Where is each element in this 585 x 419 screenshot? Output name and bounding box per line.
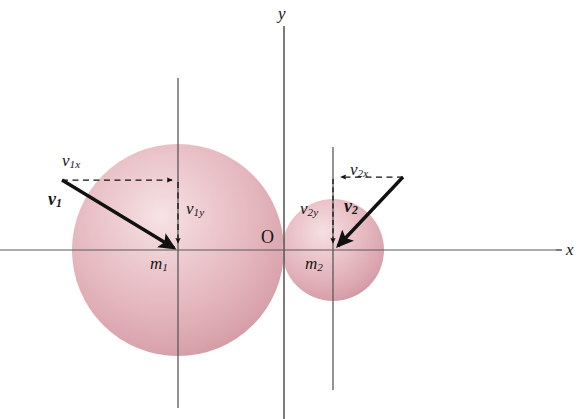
m2-label: m2: [305, 255, 323, 273]
v2-label: v2: [344, 197, 358, 217]
diagram-canvas: [0, 0, 585, 419]
v1x-label: v1x: [62, 152, 80, 170]
y-axis-label: y: [278, 5, 286, 22]
v2y-label: v2y: [300, 200, 318, 218]
physics-vector-diagram: y x O v1x v1 v1y m1 v2x v2 v2y m2: [0, 0, 585, 419]
x-axis-label: x: [566, 241, 574, 258]
v1-label: v1: [48, 190, 62, 210]
m1-label: m1: [150, 255, 168, 273]
v1y-label: v1y: [186, 200, 204, 218]
v2x-label: v2x: [350, 161, 368, 179]
origin-label: O: [261, 228, 274, 246]
